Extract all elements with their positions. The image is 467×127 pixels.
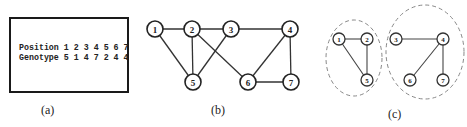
node-label: 3 <box>394 36 398 44</box>
b-node-5: 5 <box>185 74 201 90</box>
b-node-2: 2 <box>184 21 200 37</box>
caption-b: (b) <box>211 103 225 118</box>
c-edge-4-6 <box>410 39 443 80</box>
c-node-5: 5 <box>361 74 373 86</box>
node-label: 7 <box>289 78 294 88</box>
cluster-1-boundary <box>326 20 382 96</box>
node-label: 6 <box>246 78 251 88</box>
cluster-2-boundary <box>386 5 464 99</box>
b-node-3: 3 <box>223 21 239 37</box>
node-label: 3 <box>229 25 234 35</box>
node-label: 1 <box>337 36 341 44</box>
b-node-1: 1 <box>147 21 163 37</box>
b-edge-3-5 <box>193 29 231 82</box>
node-label: 5 <box>365 77 369 85</box>
node-label: 2 <box>190 25 195 35</box>
c-node-4: 4 <box>437 33 449 45</box>
b-node-6: 6 <box>240 74 256 90</box>
b-edge-4-6 <box>248 29 290 82</box>
c-node-2: 2 <box>361 33 373 45</box>
node-label: 4 <box>288 25 293 35</box>
caption-c: (c) <box>388 107 401 122</box>
node-label: 2 <box>365 36 369 44</box>
node-label: 1 <box>153 25 158 35</box>
b-edge-1-5 <box>155 29 193 82</box>
cluster-2: 3467 <box>390 33 449 86</box>
c-node-1: 1 <box>333 33 345 45</box>
node-label: 4 <box>441 36 445 44</box>
b-node-7: 7 <box>283 74 299 90</box>
b-edge-2-6 <box>192 29 248 82</box>
cluster-1: 125 <box>333 33 373 86</box>
node-label: 7 <box>441 77 445 85</box>
node-label: 5 <box>191 78 196 88</box>
c-node-7: 7 <box>437 74 449 86</box>
clustered-graph-c: 1253467 <box>326 5 464 99</box>
b-node-4: 4 <box>282 21 298 37</box>
c-node-3: 3 <box>390 33 402 45</box>
network-graph-b: 1234567 <box>147 21 299 90</box>
c-node-6: 6 <box>404 74 416 86</box>
node-label: 6 <box>408 77 412 85</box>
c-edge-1-5 <box>339 39 367 80</box>
